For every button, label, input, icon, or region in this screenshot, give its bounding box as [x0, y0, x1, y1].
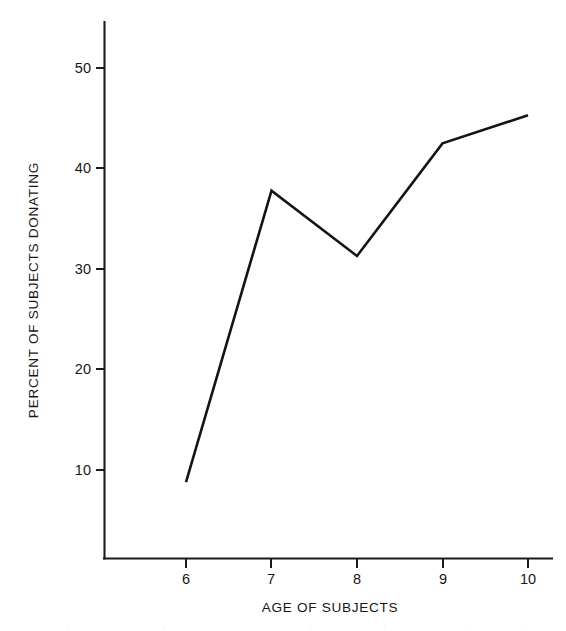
y-tick-label-20: 20: [75, 361, 91, 377]
x-tick-label-6: 6: [182, 571, 190, 587]
y-tick-label-10: 10: [75, 462, 91, 478]
x-axis-title: AGE OF SUBJECTS: [262, 600, 399, 615]
y-tick-label-40: 40: [75, 160, 91, 176]
figure-canvas: 50 40 30 20 10 6 7 8 9 10 AGE OF SUBJECT…: [0, 0, 566, 631]
x-tick-label-7: 7: [267, 571, 275, 587]
y-tick-label-50: 50: [75, 60, 91, 76]
x-tick-label-8: 8: [353, 571, 361, 587]
x-tick-label-9: 9: [439, 571, 447, 587]
data-series-line: [186, 115, 528, 482]
y-axis-title: PERCENT OF SUBJECTS DONATING: [26, 162, 41, 418]
y-tick-label-30: 30: [75, 261, 91, 277]
x-axis-tick-labels: 6 7 8 9 10: [182, 571, 536, 587]
y-axis-tick-labels: 50 40 30 20 10: [75, 60, 91, 478]
line-chart: 50 40 30 20 10 6 7 8 9 10 AGE OF SUBJECT…: [0, 0, 566, 631]
x-tick-label-10: 10: [520, 571, 536, 587]
